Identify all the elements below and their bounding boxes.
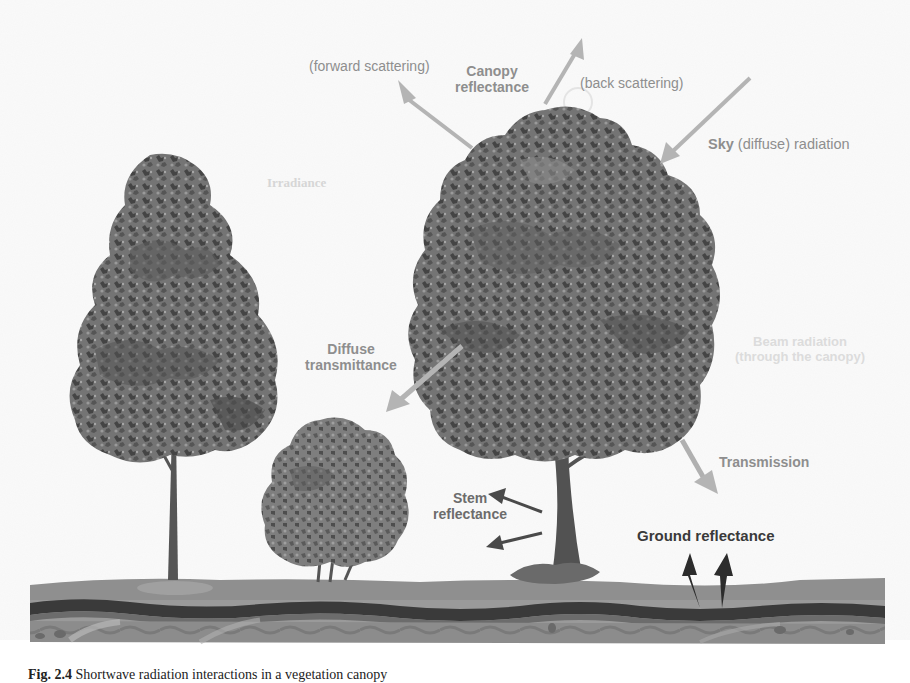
figure-caption: Fig. 2.4 Shortwave radiation interaction… [28,667,387,683]
beam-radiation-faint-label: Beam radiation (through the canopy) [735,335,865,364]
stem-reflectance-label: Stem reflectance [430,491,510,522]
ground-reflectance-label: Ground reflectance [637,528,775,545]
irradiance-faint-label: Irradiance [267,176,326,191]
sky-radiation-label: Sky (diffuse) radiation [708,136,850,152]
diffuse-transmittance-label: Diffuse transmittance [296,342,406,373]
stem-line1: Stem [453,490,487,506]
transmission-label: Transmission [719,455,809,471]
subsoil-layers [30,621,885,644]
back-scattering-label: (back scattering) [580,76,683,92]
canopy-reflectance-line2: reflectance [455,79,529,95]
caption-prefix: Fig. 2.4 [28,667,72,682]
caption-text: Shortwave radiation interactions in a ve… [72,667,387,682]
diffuse-line2: transmittance [305,357,397,373]
stem-line2: reflectance [433,506,507,522]
beam-line1: Beam radiation [753,334,847,349]
beam-line2: (through the canopy) [735,349,865,364]
sky-label-bold: Sky [708,136,734,152]
sky-label-rest: (diffuse) radiation [734,136,850,152]
forward-scattering-label: (forward scattering) [309,59,430,75]
diffuse-line1: Diffuse [327,341,374,357]
canopy-reflectance-label: Canopy reflectance [452,64,532,95]
ground [30,578,885,644]
canopy-reflectance-line1: Canopy [466,63,517,79]
